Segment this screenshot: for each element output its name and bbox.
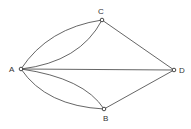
node-a: [19, 67, 23, 71]
label-c: C: [98, 7, 104, 16]
node-d: [172, 68, 176, 72]
graph-diagram: A C B D: [0, 0, 191, 129]
node-b: [102, 107, 106, 111]
node-c: [100, 18, 104, 22]
edge-a-c-outer: [21, 20, 102, 69]
edge-a-b-inner: [21, 69, 104, 109]
edge-a-d: [21, 69, 174, 70]
edge-a-b-outer: [21, 69, 104, 109]
label-b: B: [103, 114, 108, 123]
edge-c-d: [102, 20, 174, 70]
label-a: A: [9, 65, 15, 74]
edge-a-c-inner: [21, 20, 102, 69]
label-d: D: [179, 66, 185, 75]
edge-b-d: [104, 70, 174, 109]
